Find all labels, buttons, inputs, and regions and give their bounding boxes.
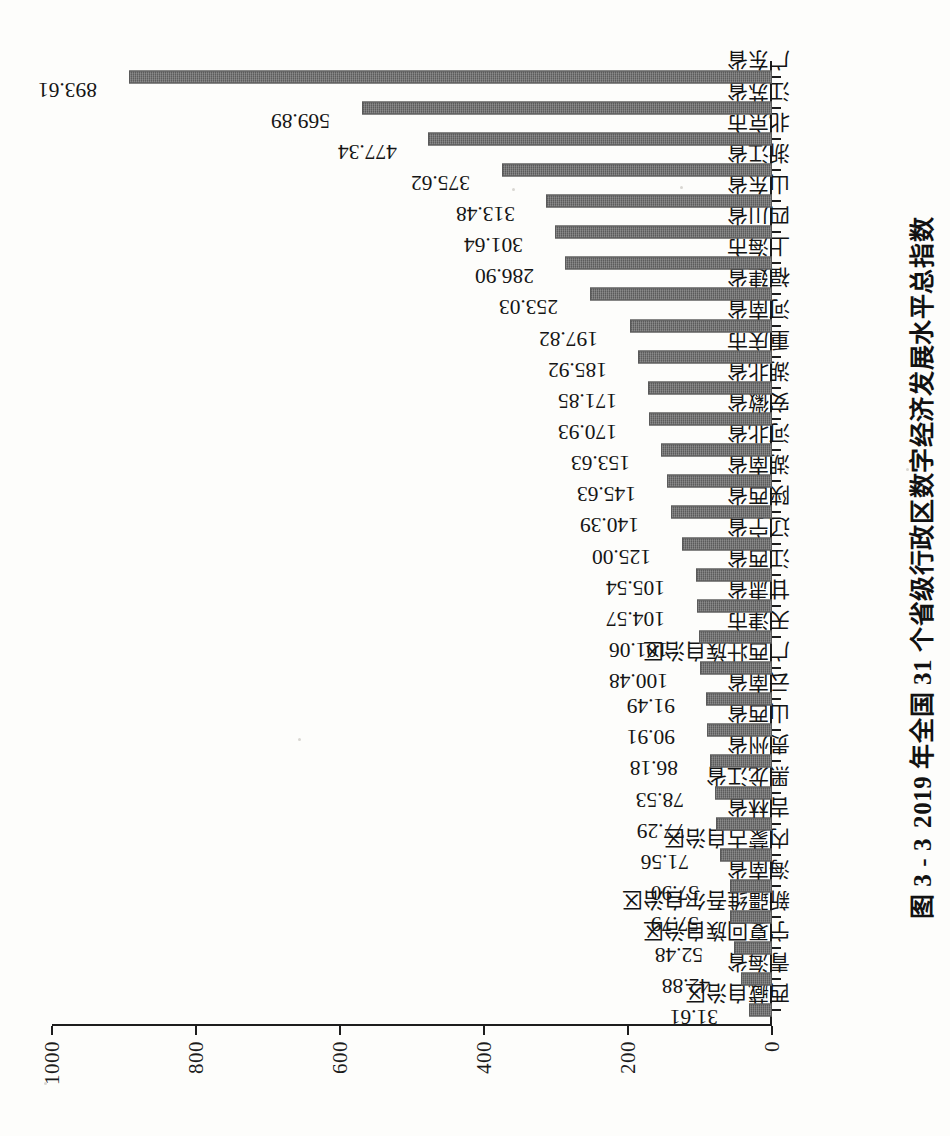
bar [749,1004,772,1017]
category-tick [772,231,781,233]
bar-group: 477.34北京市 [52,123,772,154]
category-tick [772,698,781,700]
scanned-page: 02004006008001000 31.61西藏自治区42.88青海省52.4… [0,0,950,1136]
category-tick [772,667,781,669]
category-tick [772,480,781,482]
bar [630,319,772,332]
bar [699,630,772,643]
bar [649,413,772,426]
bar-group: 140.39陕西省 [52,497,772,528]
bar-group: 57.90海南省 [52,870,772,901]
category-tick [772,76,781,78]
bar-value-label: 31.61 [669,1006,717,1028]
bar-value-label: 86.18 [630,757,678,779]
bar [716,817,772,830]
bar [707,724,772,737]
bar [362,101,772,114]
bar-value-label: 105.54 [605,576,664,598]
bar [565,257,772,270]
bar-value-label: 170.93 [558,420,617,442]
bar-group: 52.48宁夏回族自治区 [52,933,772,964]
category-tick [772,418,781,420]
bar-value-label: 57.79 [651,913,699,935]
value-tick-label: 1000 [40,1041,65,1085]
value-tick-label: 800 [184,1041,209,1074]
bar-value-label: 100.48 [609,669,668,691]
bar-group: 569.89江苏省 [52,92,772,123]
bar-group: 90.91山西省 [52,715,772,746]
scan-speck [44,1082,47,1085]
value-tick: 200 [627,1026,629,1035]
bar-group: 301.64四川省 [52,217,772,248]
bar [546,195,772,208]
category-tick [772,947,781,949]
bar [638,350,772,363]
bar-value-label: 52.48 [654,944,702,966]
category-tick [772,138,781,140]
bar-value-label: 42.88 [661,975,709,997]
bar-value-label: 153.63 [571,451,630,473]
bar [428,132,772,145]
category-tick [772,200,781,202]
category-tick [772,449,781,451]
bar [671,506,772,519]
scan-speck [512,188,515,191]
bar-value-label: 286.90 [475,264,534,286]
bar-group: 145.63湖南省 [52,466,772,497]
figure-caption-text: 2019 年全国 31 个省级行政区数字经济发展水平总指数 [909,217,936,828]
bar-group: 286.90上海市 [52,248,772,279]
bar-value-label: 140.39 [580,513,639,535]
category-tick [772,636,781,638]
figure: 02004006008001000 31.61西藏自治区42.88青海省52.4… [0,0,950,1136]
category-tick [772,729,781,731]
bar [667,475,772,488]
bar-group: 105.54江西省 [52,559,772,590]
scan-speck [298,738,301,741]
bar-group: 77.29吉林省 [52,808,772,839]
category-tick [772,325,781,327]
bar-value-label: 125.00 [591,545,650,567]
bar-group: 185.92重庆市 [52,341,772,372]
category-tick [772,293,781,295]
bar [710,755,772,768]
bar-group: 375.62浙江省 [52,154,772,185]
category-tick [772,107,781,109]
bar [700,662,772,675]
bar-group: 57.79新疆维吾尔自治区 [52,902,772,933]
bar [129,70,772,83]
bar-group: 125.00辽宁省 [52,528,772,559]
bar-value-label: 375.62 [411,171,470,193]
bar-chart-plot-area: 02004006008001000 31.61西藏自治区42.88青海省52.4… [52,61,772,1026]
category-tick [772,792,781,794]
rotated-figure-wrapper: 02004006008001000 31.61西藏自治区42.88青海省52.4… [0,0,950,1136]
bar-group: 78.53黑龙江省 [52,777,772,808]
category-tick [772,387,781,389]
bar-group: 31.61西藏自治区 [52,995,772,1026]
bar-value-label: 71.56 [641,850,689,872]
bar [706,693,772,706]
bar [730,911,772,924]
bar-series: 31.61西藏自治区42.88青海省52.48宁夏回族自治区57.79新疆维吾尔… [52,61,772,1026]
category-tick [772,262,781,264]
category-tick [772,916,781,918]
category-tick [772,760,781,762]
figure-number: 图 3 - 3 [909,838,936,919]
bar [590,288,772,301]
bar [697,599,772,612]
scan-speck [680,186,683,189]
value-tick-label: 400 [472,1041,497,1074]
value-tick: 1000 [51,1026,53,1035]
bar-value-label: 145.63 [577,482,636,504]
bar-value-label: 185.92 [548,358,607,380]
bar-group: 893.61广东省 [52,61,772,92]
bar-value-label: 569.89 [271,109,330,131]
bar-value-label: 101.06 [609,638,668,660]
value-tick: 400 [483,1026,485,1035]
category-tick [772,169,781,171]
bar-group: 253.03福建省 [52,279,772,310]
bar-value-label: 104.57 [606,607,665,629]
bar-group: 42.88青海省 [52,964,772,995]
category-tick [772,1009,781,1011]
bar [555,226,772,239]
bar-value-label: 301.64 [464,233,523,255]
